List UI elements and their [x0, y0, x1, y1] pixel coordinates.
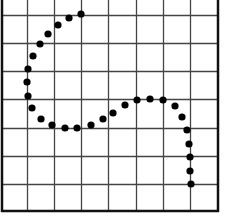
curve-dot	[44, 30, 51, 37]
dotted-curve-grid	[0, 0, 226, 218]
curve-dot	[77, 10, 84, 17]
curve-dot	[185, 140, 192, 147]
curve-dot	[24, 65, 31, 72]
curve-dot	[28, 104, 35, 111]
curve-dot	[186, 167, 193, 174]
curve-dot	[178, 113, 185, 120]
curve-dot	[146, 95, 153, 102]
curve-dot	[54, 21, 61, 28]
curve-dot	[29, 52, 36, 59]
curve-dot	[159, 96, 166, 103]
curve-dot	[171, 102, 178, 109]
curve-dot	[36, 40, 43, 47]
curve-dot	[65, 14, 72, 21]
curve-dot	[133, 96, 140, 103]
curve-dot	[37, 115, 44, 122]
curve-dot	[187, 180, 194, 187]
curve-dot	[99, 115, 106, 122]
curve-dot	[24, 92, 31, 99]
curve-dot	[23, 78, 30, 85]
curve-dot	[87, 121, 94, 128]
curve-dot	[183, 126, 190, 133]
curve-dot	[109, 109, 116, 116]
curve-dot	[48, 121, 55, 128]
curve-dot	[73, 124, 80, 131]
curve-dot	[121, 101, 128, 108]
curve-dot	[186, 153, 193, 160]
curve-dot	[61, 124, 68, 131]
